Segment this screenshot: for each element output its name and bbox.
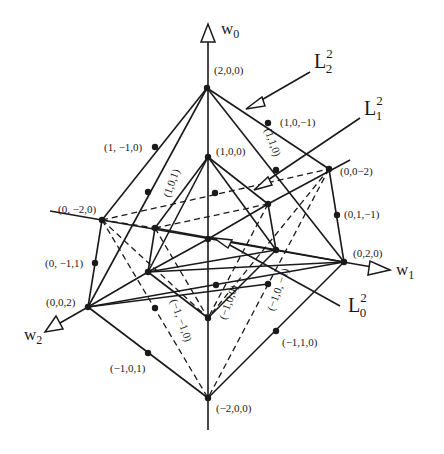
- label-m2-0-0: (−2,0,0): [216, 402, 252, 415]
- label-1-0-0: (1,0,0): [216, 145, 246, 158]
- w1-arrow-icon: [368, 261, 390, 275]
- w1-axis-label: w1: [396, 260, 414, 282]
- w0-axis-label: w0: [221, 19, 239, 41]
- L2-label: L22: [314, 46, 333, 76]
- label-0-0-2: (0,0,2): [46, 296, 76, 309]
- label-m1-0-m1: (−1,0, −1): [264, 266, 292, 313]
- L1-label: L21: [364, 93, 383, 123]
- L0-arrow-icon: [214, 238, 232, 248]
- L2-pointer: [246, 72, 310, 109]
- L0-label: L20: [348, 290, 367, 320]
- L2-arrow-icon: [246, 97, 265, 109]
- w2-axis-label: w2: [24, 325, 42, 347]
- label-0-m2-0: (0, −2,0): [58, 203, 97, 216]
- w2-arrow-icon: [45, 316, 63, 332]
- label-m1-0-1: (−1,0,1): [110, 362, 146, 375]
- label-0-1-m1: (0,1,−1): [344, 208, 380, 221]
- axis-w2: [45, 307, 88, 332]
- label-1-1-0: (1,1,0): [261, 126, 283, 158]
- diagram-canvas: w0 w1 w2 L22 L21 L20 (2,0,0) (1,0,−1) (1…: [0, 0, 444, 454]
- lattice-dots: [85, 85, 347, 401]
- label-m1-0-0: (−1,0,0): [216, 283, 240, 321]
- L1-arrow-icon: [254, 177, 272, 190]
- label-2-0-0: (2,0,0): [214, 64, 244, 77]
- w0-arrow-icon: [201, 24, 215, 42]
- label-0-0-m2: (0,0−2): [340, 165, 373, 178]
- weight-lattice-diagram: w0 w1 w2 L22 L21 L20 (2,0,0) (1,0,−1) (1…: [0, 0, 444, 454]
- label-1-m1-0: (1, −1,0): [104, 141, 143, 154]
- label-m1-1-0: (−1,1,0): [282, 336, 318, 349]
- label-1-0-m1: (1,0,−1): [280, 116, 316, 129]
- label-0-2-0: (0,2,0): [353, 247, 383, 260]
- axis-w0: [201, 24, 215, 430]
- label-0-m1-1: (0, −1,1): [45, 257, 84, 270]
